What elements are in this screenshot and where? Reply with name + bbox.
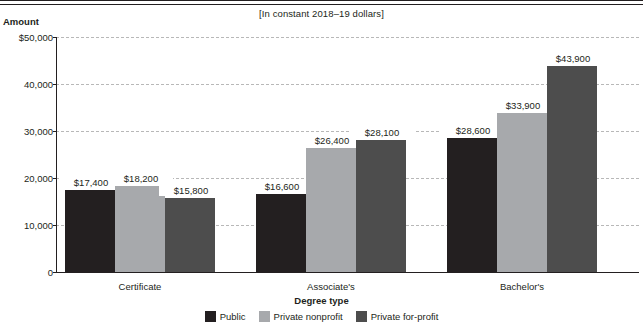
bar-group: $16,600$26,400$28,100 bbox=[256, 37, 406, 272]
legend-swatch-icon bbox=[259, 311, 270, 322]
chart-title: Degree type and control of institution bbox=[42, 0, 197, 4]
chart-subtitle: [In constant 2018–19 dollars] bbox=[0, 8, 643, 19]
legend-swatch-icon bbox=[205, 311, 216, 322]
bar-group: $28,600$33,900$43,900 bbox=[447, 37, 597, 272]
bar[interactable] bbox=[165, 198, 215, 272]
bar[interactable] bbox=[356, 140, 406, 272]
bar-group: $17,400$18,200$15,800 bbox=[65, 37, 215, 272]
y-axis-tick-label: 40,000 bbox=[3, 79, 53, 90]
y-axis-title: Amount bbox=[3, 16, 39, 27]
legend-item[interactable]: Private nonprofit bbox=[259, 311, 343, 322]
legend-swatch-icon bbox=[356, 311, 367, 322]
x-axis-title: Degree type bbox=[0, 295, 643, 306]
chart-legend: PublicPrivate nonprofitPrivate for-profi… bbox=[0, 311, 643, 322]
x-axis-tick-label: Bachelor's bbox=[427, 281, 617, 292]
bar[interactable] bbox=[497, 113, 547, 272]
legend-label: Public bbox=[220, 311, 246, 322]
bar[interactable] bbox=[65, 190, 115, 272]
y-axis-ticks: 010,00020,00030,00040,000$50,000 bbox=[0, 37, 53, 273]
plot-area: $17,400$18,200$15,800$16,600$26,400$28,1… bbox=[56, 37, 639, 272]
x-axis-tick-label: Associate's bbox=[236, 281, 426, 292]
bar[interactable] bbox=[306, 148, 356, 272]
bar-value-label: $43,900 bbox=[541, 53, 605, 64]
bar[interactable] bbox=[447, 138, 497, 272]
x-axis-tick-label: Certificate bbox=[45, 281, 235, 292]
y-axis-line bbox=[56, 37, 57, 273]
legend-label: Private nonprofit bbox=[274, 311, 343, 322]
bar[interactable] bbox=[115, 186, 165, 272]
bar-value-label: $28,600 bbox=[441, 125, 505, 136]
legend-item[interactable]: Private for-profit bbox=[356, 311, 439, 322]
legend-item[interactable]: Public bbox=[205, 311, 246, 322]
bar[interactable] bbox=[547, 66, 597, 272]
y-axis-tick-label: 20,000 bbox=[3, 173, 53, 184]
y-axis-tick-label: $50,000 bbox=[3, 32, 53, 43]
bar-value-label: $15,800 bbox=[159, 185, 223, 196]
x-axis-line bbox=[56, 272, 639, 273]
top-rule-lower bbox=[0, 4, 643, 5]
y-axis-tick-label: 10,000 bbox=[3, 220, 53, 231]
bar-value-label: $18,200 bbox=[109, 173, 173, 184]
y-axis-tick-label: 30,000 bbox=[3, 126, 53, 137]
bar-value-label: $16,600 bbox=[250, 181, 314, 192]
bar-value-label: $33,900 bbox=[491, 100, 555, 111]
bar[interactable] bbox=[256, 194, 306, 272]
y-axis-tick-label: 0 bbox=[3, 267, 53, 278]
bar-value-label: $28,100 bbox=[350, 127, 414, 138]
chart-figure: Degree type and control of institution [… bbox=[0, 0, 643, 331]
legend-label: Private for-profit bbox=[371, 311, 439, 322]
